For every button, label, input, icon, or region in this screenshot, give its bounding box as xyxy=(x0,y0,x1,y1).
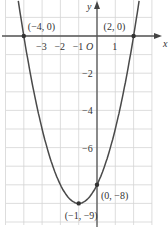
point-label: (−1, −9) xyxy=(65,210,98,222)
key-point xyxy=(77,201,81,205)
x-tick-label: −2 xyxy=(54,41,65,52)
y-tick-label: −6 xyxy=(82,143,93,154)
point-label: (0, −8) xyxy=(101,190,128,202)
y-tick-label: −2 xyxy=(82,68,93,79)
x-tick-label: −3 xyxy=(36,41,47,52)
origin-label: O xyxy=(86,41,93,52)
point-label: (−4, 0) xyxy=(28,21,55,33)
x-axis-arrow-icon xyxy=(154,33,162,39)
x-tick-label: 1 xyxy=(112,41,117,52)
y-axis-arrow-icon xyxy=(94,1,100,9)
key-point xyxy=(22,34,26,38)
point-label: (2, 0) xyxy=(104,21,126,33)
key-point xyxy=(131,34,135,38)
parabola-chart: xyO−3−2−11−2−4−6(−4, 0)(2, 0)(0, −8)(−1,… xyxy=(0,0,168,232)
key-point xyxy=(95,183,99,187)
x-axis-label: x xyxy=(162,38,168,49)
y-tick-label: −4 xyxy=(82,105,93,116)
x-tick-label: −1 xyxy=(73,41,84,52)
y-axis-label: y xyxy=(86,1,92,12)
